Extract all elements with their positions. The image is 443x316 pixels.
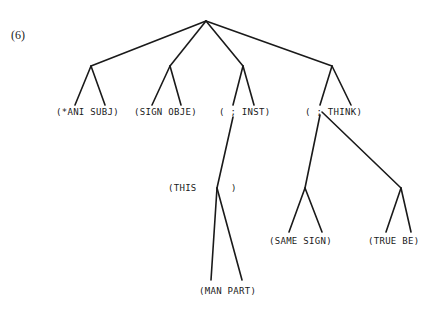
label-this: (THIS ) (168, 183, 237, 193)
label-true-be: (TRUE BE) (368, 236, 419, 246)
figure-number: (6) (11, 28, 25, 42)
label-same-sign: (SAME SIGN) (269, 236, 332, 246)
subtree-inst: ( ; INST) (THIS ) (MAN PART) (168, 66, 270, 296)
subtree-ani-subj: (*ANI SUBJ) (56, 66, 119, 117)
label-inst: ( ; INST) (219, 107, 270, 117)
tree-svg: (6) (*ANI SUBJ) (SIGN OBJE) ( ; INST) ( (0, 0, 443, 316)
root-edges (91, 21, 332, 66)
label-sign-obje: (SIGN OBJE) (134, 107, 197, 117)
label-ani-subj: (*ANI SUBJ) (56, 107, 119, 117)
label-man-part: (MAN PART) (199, 286, 256, 296)
tree-diagram: (6) (*ANI SUBJ) (SIGN OBJE) ( ; INST) ( (0, 0, 443, 316)
subtree-sign-obje: (SIGN OBJE) (134, 66, 197, 117)
subtree-think: ( ; THINK) (SAME SIGN) (TRUE BE) (269, 66, 419, 246)
label-think: ( ; THINK) (305, 107, 362, 117)
